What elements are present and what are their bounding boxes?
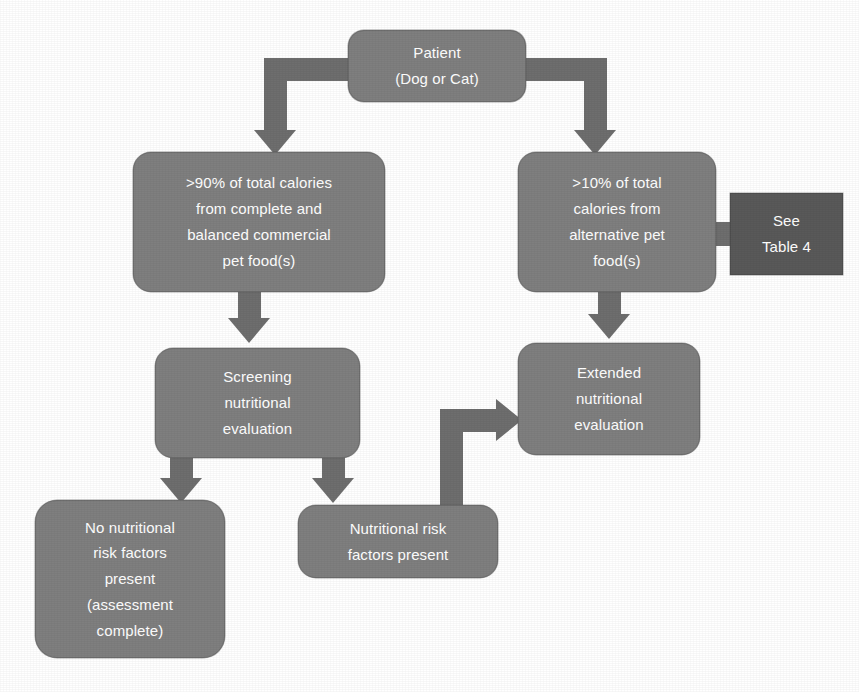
node-screening-evaluation[interactable]: Screening nutritional evaluation <box>155 348 360 458</box>
edge-risk-present-to-extended-horizontal <box>440 409 502 432</box>
edge-patient-to-alternative-vertical <box>584 58 607 138</box>
node-complete-balanced-label: >90% of total calories from complete and… <box>134 170 384 273</box>
node-risk-factors-present[interactable]: Nutritional risk factors present <box>298 505 498 578</box>
node-extended-evaluation[interactable]: Extended nutritional evaluation <box>518 343 700 455</box>
node-see-table-4-label: See Table 4 <box>731 208 842 260</box>
edge-screening-to-risk-present-arrowhead <box>312 478 354 503</box>
edge-alternative-to-extended-arrowhead <box>588 314 630 339</box>
node-patient-label: Patient (Dog or Cat) <box>349 40 525 92</box>
node-alternative-pet-food[interactable]: >10% of total calories from alternative … <box>518 152 716 292</box>
node-patient[interactable]: Patient (Dog or Cat) <box>348 30 526 102</box>
node-no-risk-factors[interactable]: No nutritional risk factors present (ass… <box>35 500 225 658</box>
node-no-risk-factors-label: No nutritional risk factors present (ass… <box>36 515 224 644</box>
node-extended-evaluation-label: Extended nutritional evaluation <box>519 360 699 437</box>
node-complete-balanced[interactable]: >90% of total calories from complete and… <box>133 152 385 292</box>
node-screening-evaluation-label: Screening nutritional evaluation <box>156 364 359 441</box>
node-see-table-4[interactable]: See Table 4 <box>730 193 843 275</box>
edge-complete-balanced-to-screening-arrowhead <box>228 318 270 343</box>
edge-patient-to-complete-balanced-vertical <box>264 58 287 138</box>
flowchart-canvas: Patient (Dog or Cat) >90% of total calor… <box>0 0 859 692</box>
node-risk-factors-present-label: Nutritional risk factors present <box>299 516 497 568</box>
node-alternative-pet-food-label: >10% of total calories from alternative … <box>519 170 715 273</box>
